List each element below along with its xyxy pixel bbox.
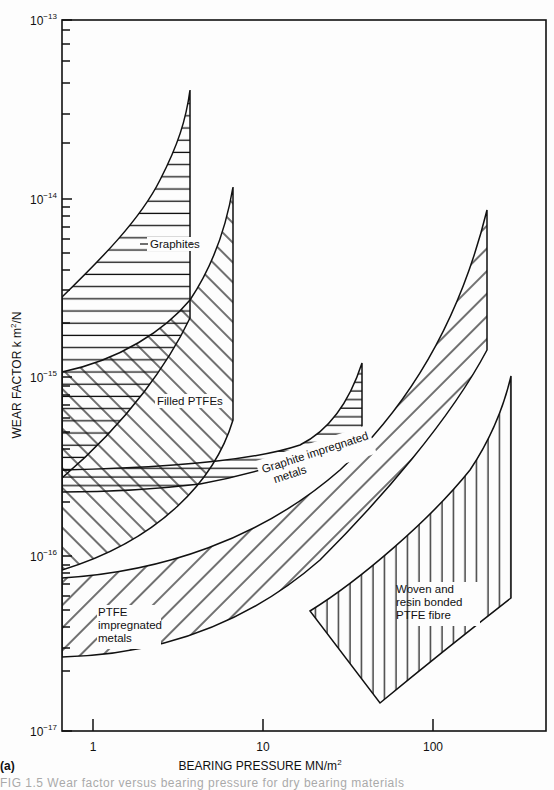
figure-caption-fragment: FIG 1.5 Wear factor versus bearing press… [0,776,404,790]
svg-text:10−13: 10−13 [30,12,57,28]
svg-text:100: 100 [423,740,443,754]
x-tick-labels: 1 10 100 [90,740,444,754]
svg-text:Woven and: Woven and [396,583,454,595]
label-filled-ptfes: Filled PTFEs [157,395,223,407]
x-axis-ticks [93,719,433,731]
svg-text:metals: metals [98,632,132,644]
y-tick-labels: 10−13 10−14 10−15 10−16 10−17 [30,12,57,739]
svg-text:PTFE: PTFE [98,606,128,618]
svg-text:10: 10 [256,740,270,754]
panel-label: (a) [0,759,15,773]
svg-text:1: 1 [90,740,97,754]
label-graphites: Graphites [150,238,200,250]
x-axis-title: BEARING PRESSURE MN/m2 [178,758,342,773]
svg-text:10−14: 10−14 [30,191,57,207]
svg-text:10−16: 10−16 [30,548,57,564]
y-axis-title: WEAR FACTOR k m2/N [9,312,24,439]
svg-text:resin bonded: resin bonded [396,596,463,608]
svg-text:10−15: 10−15 [30,369,57,385]
svg-text:10−17: 10−17 [30,723,57,739]
wear-factor-chart: 10−13 10−14 10−15 10−16 10−17 1 10 100 B… [0,0,554,790]
svg-text:impregnated: impregnated [98,619,162,631]
svg-text:PTFE fibre: PTFE fibre [396,609,451,621]
